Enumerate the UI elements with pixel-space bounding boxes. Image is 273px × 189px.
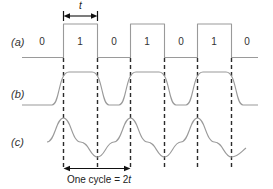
bit-period-dimension: t bbox=[64, 0, 98, 21]
row-a: (a) 0 1 0 1 0 1 0 bbox=[11, 24, 258, 58]
transition-gridlines bbox=[64, 58, 232, 168]
waveform-diagram: t (a) 0 1 0 1 0 1 0 (b) bbox=[0, 0, 273, 189]
cycle-label-prefix: One cycle = 2 bbox=[67, 174, 129, 185]
cycle-left-arrowhead bbox=[64, 166, 71, 171]
cycle-right-arrowhead bbox=[124, 166, 131, 171]
sine-wave-trace bbox=[47, 118, 246, 157]
bit-digit-3: 1 bbox=[144, 36, 150, 47]
row-b-label: (b) bbox=[11, 88, 25, 100]
bit-digit-6: 0 bbox=[244, 36, 250, 47]
square-wave-trace bbox=[22, 24, 258, 58]
bit-digit-5: 1 bbox=[211, 36, 217, 47]
bit-digit-0: 0 bbox=[39, 36, 45, 47]
bit-digit-1: 1 bbox=[77, 36, 83, 47]
cycle-label: One cycle = 2t bbox=[67, 174, 132, 185]
bit-digit-4: 0 bbox=[178, 36, 184, 47]
bit-period-left-arrowhead bbox=[64, 13, 71, 18]
bit-period-label: t bbox=[79, 0, 83, 11]
row-c-label: (c) bbox=[11, 136, 24, 148]
cycle-dimension: One cycle = 2t bbox=[64, 166, 133, 185]
bit-period-right-arrowhead bbox=[91, 13, 98, 18]
row-a-label: (a) bbox=[11, 36, 25, 48]
waveform-figure: t (a) 0 1 0 1 0 1 0 (b) bbox=[0, 0, 273, 189]
cycle-label-symbol: t bbox=[128, 174, 132, 185]
row-c: (c) bbox=[11, 118, 246, 157]
bit-digit-2: 0 bbox=[111, 36, 117, 47]
rounded-square-wave-trace bbox=[22, 72, 258, 105]
row-b: (b) bbox=[11, 72, 258, 105]
